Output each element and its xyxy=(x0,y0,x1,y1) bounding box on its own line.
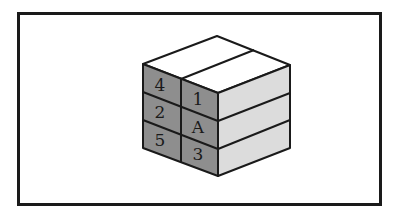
block-label-3: 3 xyxy=(193,144,204,164)
block-label-5: 5 xyxy=(155,130,166,150)
block-label-2: 2 xyxy=(155,102,166,122)
block-label-A: A xyxy=(191,117,205,137)
cube-diagram: 4 1 2 A 5 3 xyxy=(0,0,394,216)
block-label-4: 4 xyxy=(155,75,166,95)
block-label-1: 1 xyxy=(193,89,204,109)
